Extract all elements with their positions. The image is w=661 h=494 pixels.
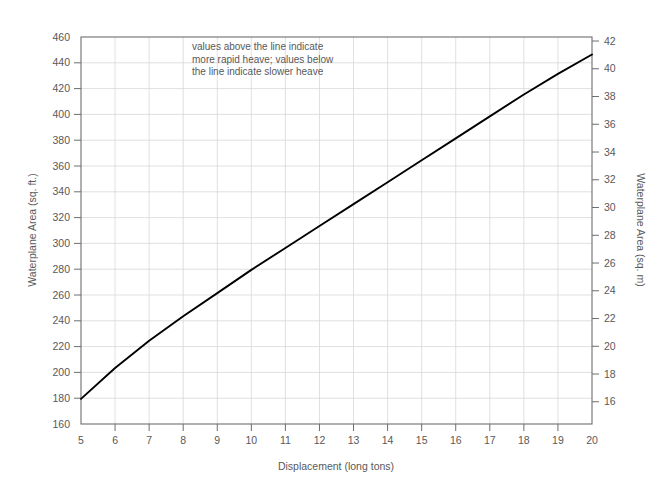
right-tick-label: 26 [604, 257, 616, 269]
right-tick-label: 30 [604, 201, 616, 213]
right-tick-label: 22 [604, 312, 616, 324]
bottom-tick-label: 19 [552, 434, 564, 446]
left-tick-label: 220 [52, 340, 70, 352]
left-tick-label: 420 [52, 82, 70, 94]
right-tick-label: 32 [604, 173, 616, 185]
bottom-tick-label: 7 [146, 434, 152, 446]
right-tick-label: 28 [604, 229, 616, 241]
right-axis-title: Waterplane Area (sq. m) [635, 173, 647, 286]
right-tick-label: 36 [604, 118, 616, 130]
bottom-tick-label: 5 [78, 434, 84, 446]
left-tick-label: 200 [52, 366, 70, 378]
left-tick-label: 460 [52, 31, 70, 43]
waterplane-area-line-chart: 460 440 420 400 380 360 340 320 300 280 … [0, 0, 661, 494]
left-tick-label: 320 [52, 211, 70, 223]
heave-note-annotation: values above the line indicate more rapi… [192, 41, 334, 77]
bottom-tick-label: 12 [314, 434, 326, 446]
left-tick-label: 300 [52, 237, 70, 249]
bottom-tick-label: 8 [180, 434, 186, 446]
right-tick-label: 18 [604, 368, 616, 380]
left-tick-label: 380 [52, 134, 70, 146]
bottom-tick-label: 14 [382, 434, 394, 446]
right-tick-label: 24 [604, 284, 616, 296]
bottom-tick-label: 11 [280, 434, 291, 446]
bottom-axis-title: Displacement (long tons) [278, 460, 394, 472]
left-tick-label: 280 [52, 263, 70, 275]
left-tick-label: 340 [52, 185, 70, 197]
bottom-tick-label: 18 [518, 434, 530, 446]
left-tick-label: 360 [52, 160, 70, 172]
right-tick-label: 34 [604, 146, 616, 158]
bottom-tick-label: 9 [214, 434, 220, 446]
right-tick-label: 40 [604, 62, 616, 74]
bottom-tick-label: 13 [348, 434, 360, 446]
left-axis-title: Waterplane Area (sq. ft.) [26, 173, 38, 286]
left-tick-label: 180 [52, 392, 70, 404]
left-tick-label: 400 [52, 108, 70, 120]
bottom-tick-label: 6 [112, 434, 118, 446]
heave-note-line-3: the line indicate slower heave [192, 66, 324, 77]
right-tick-label: 38 [604, 90, 616, 102]
left-tick-label: 160 [52, 418, 70, 430]
chart-figure: 460 440 420 400 380 360 340 320 300 280 … [0, 0, 661, 494]
bottom-tick-label: 10 [245, 434, 257, 446]
bottom-tick-label: 15 [416, 434, 428, 446]
left-tick-label: 440 [52, 56, 70, 68]
bottom-tick-label: 17 [484, 434, 496, 446]
bottom-tick-label: 20 [586, 434, 598, 446]
heave-note-line-2: more rapid heave; values below [192, 54, 334, 65]
left-tick-label: 260 [52, 289, 70, 301]
heave-note-line-1: values above the line indicate [192, 41, 324, 52]
bottom-tick-label: 16 [450, 434, 462, 446]
right-tick-label: 16 [604, 395, 616, 407]
left-tick-label: 240 [52, 314, 70, 326]
right-tick-label: 42 [604, 35, 616, 47]
right-tick-label: 20 [604, 340, 616, 352]
chart-background [0, 0, 661, 494]
